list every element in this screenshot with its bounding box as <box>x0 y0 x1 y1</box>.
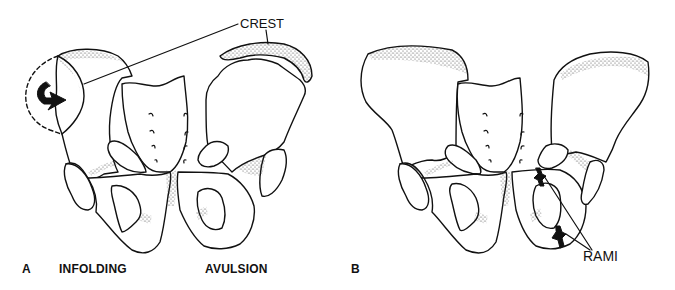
crest-label: CREST <box>240 16 284 31</box>
panel-b-drawing <box>361 46 649 253</box>
panel-b-label: B <box>351 262 360 276</box>
panel-a-label: A <box>22 262 31 276</box>
pelvis-diagram <box>0 0 675 290</box>
avulsion-caption: AVULSION <box>205 262 268 276</box>
rami-label: RAMI <box>583 248 618 264</box>
panel-a-drawing <box>26 24 312 253</box>
infolding-caption: INFOLDING <box>59 262 127 276</box>
